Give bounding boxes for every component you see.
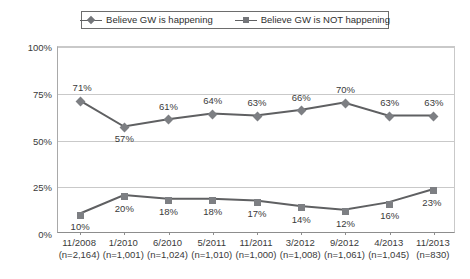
x-axis-category-label: 6/2010(n=1,024): [147, 237, 188, 261]
data-point-marker: [209, 197, 216, 204]
y-axis-tick-label: 0%: [38, 229, 52, 240]
data-point-label: 57%: [115, 133, 134, 144]
chart-plot-area: 0%25%50%75%100% 71%57%61%64%63%66%70%63%…: [57, 46, 455, 233]
data-point-label: 63%: [380, 97, 399, 108]
x-label-sample-size: (n=2,164): [59, 249, 100, 261]
data-point-label: 17%: [247, 208, 266, 219]
data-point-label: 66%: [292, 92, 311, 103]
legend-item-label: Believe GW is NOT happening: [261, 15, 390, 25]
data-point-label: 18%: [203, 206, 222, 217]
y-axis-tick-label: 100%: [28, 42, 52, 53]
x-label-sample-size: (n=1,000): [236, 249, 277, 261]
x-label-sample-size: (n=1,010): [191, 249, 232, 261]
x-axis-tick: [257, 232, 258, 235]
x-axis-tick: [390, 232, 391, 235]
legend-item-label: Believe GW is happening: [106, 15, 213, 25]
x-label-date: 5/2011: [198, 237, 226, 248]
gridline: 0%: [58, 234, 454, 235]
y-axis-tick-label: 50%: [33, 135, 52, 146]
data-point-label: 18%: [159, 206, 178, 217]
x-axis-category-label: 4/2013(n=1,045): [368, 237, 409, 261]
data-point-label: 61%: [159, 101, 178, 112]
data-point-label: 10%: [71, 221, 90, 232]
x-label-date: 1/2010: [109, 237, 138, 248]
x-axis-tick: [434, 232, 435, 235]
x-label-sample-size: (n=1,045): [368, 249, 409, 261]
x-axis-tick: [124, 232, 125, 235]
data-point-marker: [298, 204, 305, 211]
x-label-sample-size: (n=1,024): [147, 249, 188, 261]
data-point-marker: [77, 212, 84, 219]
x-label-date: 4/2013: [374, 237, 403, 248]
x-axis-category-label: 1/2010(n=1,001): [103, 237, 144, 261]
x-axis-tick: [301, 232, 302, 235]
x-axis-tick: [213, 232, 214, 235]
x-axis-category-label: 3/2012(n=1,008): [280, 237, 321, 261]
data-point-label: 71%: [73, 82, 92, 93]
data-point-label: 63%: [424, 97, 443, 108]
data-point-marker: [386, 201, 393, 208]
x-label-date: 11/2011: [240, 237, 273, 248]
x-label-date: 6/2010: [153, 237, 182, 248]
data-point-label: 64%: [203, 95, 222, 106]
x-label-date: 11/2008: [62, 237, 96, 248]
data-point-marker: [165, 197, 172, 204]
data-point-marker: [254, 199, 261, 206]
x-label-sample-size: (n=830): [416, 249, 450, 261]
x-axis-tick: [169, 232, 170, 235]
data-point-label: 63%: [247, 97, 266, 108]
x-label-sample-size: (n=1,001): [103, 249, 144, 261]
data-point-label: 12%: [336, 218, 355, 229]
data-point-label: 70%: [336, 84, 355, 95]
data-point-marker: [121, 193, 128, 200]
y-axis-tick-label: 75%: [33, 88, 52, 99]
diamond-line-icon: [80, 16, 102, 25]
x-axis-category-label: 5/2011(n=1,010): [191, 237, 232, 261]
y-axis-tick-label: 25%: [33, 182, 52, 193]
x-axis-tick: [80, 232, 81, 235]
x-axis-labels: 11/2008(n=2,164)1/2010(n=1,001)6/2010(n=…: [57, 237, 455, 267]
data-point-label: 16%: [380, 210, 399, 221]
x-label-sample-size: (n=1,061): [324, 249, 365, 261]
legend-item-believe-not-happening: Believe GW is NOT happening: [235, 15, 390, 25]
x-axis-category-label: 11/2013(n=830): [416, 237, 450, 261]
x-label-sample-size: (n=1,008): [280, 249, 321, 261]
data-point-label: 20%: [115, 203, 134, 214]
data-point-marker: [430, 187, 437, 194]
chart-legend: Believe GW is happening Believe GW is NO…: [81, 11, 389, 29]
x-axis-tick: [345, 232, 346, 235]
square-line-icon: [235, 16, 257, 25]
data-point-label: 14%: [292, 214, 311, 225]
x-axis-category-label: 11/2008(n=2,164): [59, 237, 100, 261]
x-label-date: 9/2012: [330, 237, 359, 248]
data-point-label: 23%: [422, 197, 441, 208]
x-label-date: 11/2013: [416, 237, 450, 248]
x-axis-category-label: 9/2012(n=1,061): [324, 237, 365, 261]
data-point-marker: [342, 208, 349, 215]
x-label-date: 3/2012: [286, 237, 315, 248]
x-axis-category-label: 11/2011(n=1,000): [236, 237, 277, 261]
legend-item-believe-happening: Believe GW is happening: [80, 15, 213, 25]
